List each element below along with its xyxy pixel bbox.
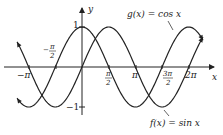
tick-label-pi: π (131, 70, 139, 80)
tick-label-neg-half-pi: − π 2 (43, 43, 56, 60)
x-axis-label: x (212, 72, 217, 82)
sin-label-leader (164, 110, 169, 116)
trig-chart: y x 1 −1 −π − π 2 π 2 π 3π 2 2π g(x) = c… (0, 0, 223, 135)
tick-label-neg-pi: −π (17, 70, 32, 80)
cos-label-leader (168, 21, 173, 30)
svg-text:2: 2 (49, 52, 55, 60)
svg-text:3π: 3π (163, 70, 172, 78)
svg-text:2: 2 (105, 79, 111, 87)
tick-label-three-half-pi: 3π 2 (163, 70, 173, 87)
tick-label-two-pi: 2π (184, 70, 198, 80)
tick-label-1: 1 (73, 20, 79, 30)
svg-text:2: 2 (165, 79, 171, 87)
y-axis-label: y (87, 4, 94, 14)
cos-function-label: g(x) = cos x (127, 9, 181, 19)
tick-label-neg1: −1 (66, 102, 79, 112)
sin-function-label: f(x) = sin x (149, 118, 200, 128)
svg-text:−: − (43, 46, 49, 54)
svg-text:π: π (105, 70, 111, 78)
svg-text:π: π (49, 43, 55, 51)
